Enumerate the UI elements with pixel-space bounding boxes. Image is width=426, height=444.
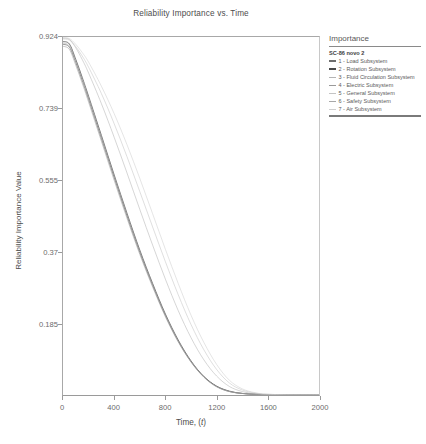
reliability-importance-chart: Reliability Importance vs. Time 0.1850.3… [0,0,426,444]
legend-divider-top [329,46,421,47]
y-tick-label: 0.739 [18,104,58,113]
x-tick-mark [320,396,321,400]
series-line [63,38,319,395]
x-tick-mark [165,396,166,400]
series-line [63,46,319,395]
legend-item-label: 1 - Load Subsystem [339,57,388,65]
series-lines [63,37,319,395]
legend-item-label: 4 - Electric Subsystem [339,81,394,89]
legend-item-label: 5 - General Subsystem [339,89,395,97]
legend-item[interactable]: 5 - General Subsystem [329,89,423,97]
legend-color-swatch [329,101,336,102]
legend-item-label: 2 - Rotation Subsystem [339,65,396,73]
x-tick-label: 400 [91,403,137,412]
x-tick-label: 800 [142,403,188,412]
legend-item[interactable]: 4 - Electric Subsystem [329,81,423,89]
x-axis-title-prefix: Time, ( [176,418,201,427]
series-line [63,42,319,395]
legend-color-swatch [329,77,336,78]
legend-item[interactable]: 6 - Safety Subsystem [329,97,423,105]
x-tick-mark [62,396,63,400]
x-axis-title-suffix: ) [203,418,206,427]
legend-item[interactable]: 2 - Rotation Subsystem [329,65,423,73]
legend-group-name: SC-86 novo 2 [329,50,423,56]
legend-divider-bottom [329,115,421,117]
x-tick-mark [268,396,269,400]
x-tick-label: 0 [39,403,85,412]
series-line [63,39,319,395]
legend-color-swatch [329,85,336,86]
series-line [63,38,319,395]
legend-color-swatch [329,109,336,110]
legend-item-label: 6 - Safety Subsystem [339,97,391,105]
legend-item[interactable]: 1 - Load Subsystem [329,57,423,65]
x-tick-mark [217,396,218,400]
y-tick-label: 0.37 [18,247,58,256]
y-axis-title: Reliability Importance Value [14,131,23,311]
y-tick-label: 0.185 [18,319,58,328]
x-tick-label: 1600 [245,403,291,412]
chart-title: Reliability Importance vs. Time [62,9,320,18]
x-tick-mark [114,396,115,400]
x-tick-label: 2000 [297,403,343,412]
legend-entry-list: 1 - Load Subsystem2 - Rotation Subsystem… [329,57,423,113]
legend-item-label: 3 - Fluid Circulation Subsystem [339,73,415,81]
legend: Importance SC-86 novo 2 1 - Load Subsyst… [329,34,423,117]
legend-color-swatch [329,60,336,62]
legend-item-label: 7 - Air Subsystem [339,105,382,113]
x-tick-label: 1200 [194,403,240,412]
y-tick-label: 0.555 [18,175,58,184]
series-line [63,44,319,395]
y-tick-label: 0.924 [18,32,58,41]
legend-color-swatch [329,93,336,94]
legend-item[interactable]: 3 - Fluid Circulation Subsystem [329,73,423,81]
series-line [63,43,319,395]
legend-item[interactable]: 7 - Air Subsystem [329,105,423,113]
plot-area [62,36,320,396]
legend-color-swatch [329,68,336,70]
x-axis-title: Time, (t) [62,418,320,427]
legend-title: Importance [329,34,423,43]
